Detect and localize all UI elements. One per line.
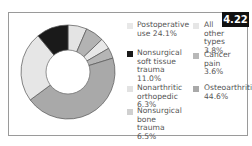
legend-label: Postoperative use 24.1% — [137, 21, 189, 38]
legend-label: Cancer pain 3.6% — [204, 51, 231, 77]
legend-swatch — [193, 86, 199, 92]
legend-label: Nonsurgical soft tissue trauma 11.0% — [137, 49, 182, 83]
donut-chart — [20, 24, 116, 120]
legend-swatch — [193, 23, 199, 29]
legend-label: Osteoarthritis 44.6% — [204, 84, 252, 101]
legend-swatch — [127, 109, 133, 115]
figure-number-badge: 4.22 — [222, 12, 249, 27]
legend-swatch — [127, 23, 133, 29]
legend-swatch — [193, 53, 199, 59]
legend-label: Nonsurgical bone trauma 6.5% — [137, 107, 182, 141]
legend-swatch — [127, 51, 133, 57]
legend-swatch — [127, 86, 133, 92]
